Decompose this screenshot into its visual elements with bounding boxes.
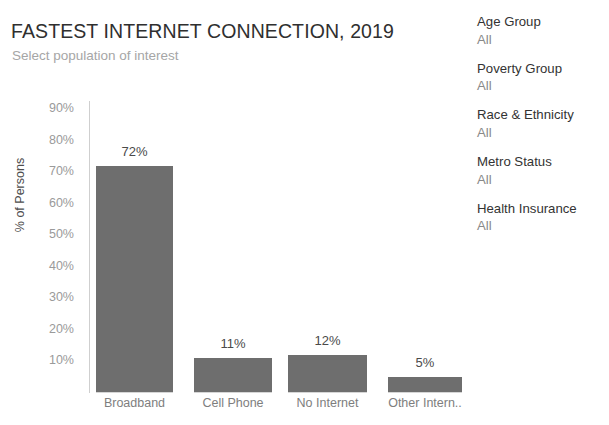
y-tick-label: 50% (30, 227, 74, 241)
filter-panel: Age GroupAllPoverty GroupAllRace & Ethni… (477, 13, 609, 246)
filter-value[interactable]: All (477, 31, 609, 49)
x-tick-mark (288, 392, 367, 393)
y-tick-label: 70% (30, 164, 74, 178)
y-axis-ticks: 10%20%30%40%50%60%70%80%90% (30, 0, 74, 425)
filter-value[interactable]: All (477, 77, 609, 95)
y-tick-label: 90% (30, 101, 74, 115)
filter-metro-status[interactable]: Metro StatusAll (477, 153, 609, 189)
filter-label: Race & Ethnicity (477, 106, 609, 124)
y-tick-label: 60% (30, 196, 74, 210)
x-axis-category-label[interactable]: Broadband (84, 396, 185, 410)
bar-group: 12%No Internet (288, 0, 367, 425)
filter-value[interactable]: All (477, 217, 609, 235)
bar-series: 72%Broadband11%Cell Phone12%No Internet5… (90, 0, 470, 425)
bar-value-label: 5% (388, 355, 462, 370)
filter-health-insurance[interactable]: Health InsuranceAll (477, 200, 609, 236)
bar[interactable] (288, 355, 367, 393)
y-tick-label: 30% (30, 290, 74, 304)
bar-value-label: 12% (288, 333, 367, 348)
bar-value-label: 72% (96, 144, 173, 159)
dashboard-viz: FASTEST INTERNET CONNECTION, 2019 Select… (0, 0, 609, 425)
filter-race-ethnicity[interactable]: Race & EthnicityAll (477, 106, 609, 142)
filter-value[interactable]: All (477, 124, 609, 142)
bar[interactable] (388, 377, 462, 393)
x-axis-category-label[interactable]: No Internet (276, 396, 379, 410)
filter-label: Age Group (477, 13, 609, 31)
filter-label: Health Insurance (477, 200, 609, 218)
filter-label: Poverty Group (477, 60, 609, 78)
x-tick-mark (194, 392, 272, 393)
bar-group: 72%Broadband (96, 0, 173, 425)
x-axis-category-label[interactable]: Other Intern.. (376, 396, 474, 410)
bar-chart: % of Persons 10%20%30%40%50%60%70%80%90%… (0, 0, 470, 425)
bar[interactable] (194, 358, 272, 393)
bar-group: 5%Other Intern.. (388, 0, 462, 425)
x-axis-category-label[interactable]: Cell Phone (182, 396, 284, 410)
y-tick-label: 40% (30, 259, 74, 273)
filter-age-group[interactable]: Age GroupAll (477, 13, 609, 49)
bar[interactable] (96, 166, 173, 393)
y-tick-label: 80% (30, 133, 74, 147)
bar-value-label: 11% (194, 336, 272, 351)
filter-poverty-group[interactable]: Poverty GroupAll (477, 60, 609, 96)
filter-label: Metro Status (477, 153, 609, 171)
x-tick-mark (96, 392, 173, 393)
x-tick-mark (388, 392, 462, 393)
y-axis-title: % of Persons (13, 140, 27, 250)
y-tick-label: 10% (30, 353, 74, 367)
filter-value[interactable]: All (477, 171, 609, 189)
y-tick-label: 20% (30, 322, 74, 336)
bar-group: 11%Cell Phone (194, 0, 272, 425)
